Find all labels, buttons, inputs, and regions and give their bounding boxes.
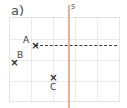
mirror-line-s-label: s [71, 2, 75, 11]
panel-label: a) [11, 3, 24, 18]
point-a-marker: × [31, 41, 40, 50]
point-c-label: C [50, 82, 56, 92]
grid-area [9, 17, 120, 102]
grid-line-horizontal [10, 81, 119, 82]
geometry-figure-panel: a) s × A × B × C [0, 0, 127, 108]
grid-line-horizontal [10, 60, 119, 61]
point-a-label: A [23, 35, 29, 45]
point-b-label: B [17, 50, 23, 60]
mirror-line-s [68, 5, 70, 108]
dashed-ray-from-point-a [35, 45, 117, 46]
point-c-marker: × [49, 73, 58, 82]
